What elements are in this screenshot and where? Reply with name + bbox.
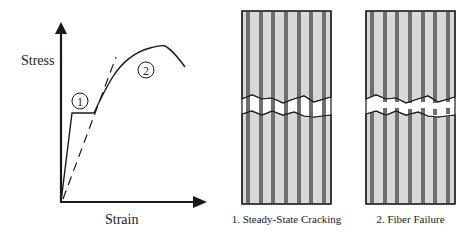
figure: 1 2 Stress Strain	[0, 0, 473, 234]
x-axis-arrow-icon	[193, 196, 207, 208]
stress-strain-curve	[61, 46, 185, 202]
y-axis-label: Stress	[21, 53, 54, 68]
stress-strain-graph: 1 2 Stress Strain	[21, 22, 207, 227]
marker-2: 2	[138, 62, 154, 78]
y-axis-arrow-icon	[55, 22, 67, 34]
x-axis-label: Strain	[105, 212, 138, 227]
panel-2-caption: 2. Fiber Failure	[376, 213, 444, 225]
marker-2-label: 2	[143, 64, 149, 78]
panel-fiber-failure: 2. Fiber Failure	[366, 11, 455, 225]
dashed-elastic-line	[63, 57, 116, 199]
marker-1-label: 1	[77, 95, 83, 109]
marker-1: 1	[72, 93, 88, 109]
panel-steady-state-cracking: 1. Steady-State Cracking	[232, 11, 342, 225]
panel-1-caption: 1. Steady-State Cracking	[232, 213, 342, 225]
